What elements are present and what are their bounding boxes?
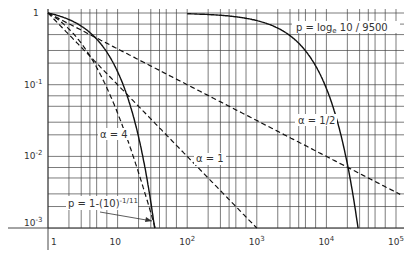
log-log-chart: 110102103104105110-110-210-3 p = loge 10… [0,0,409,257]
grid [48,9,404,228]
series-curve [48,13,257,228]
x-tick-label: 103 [249,235,265,247]
y-tick-label: 1 [33,8,39,18]
y-tick-label: 10-2 [24,149,42,161]
label-alpha-1: α = 1 [196,153,224,164]
pointer-arrow [100,212,152,221]
x-tick-label: 1 [51,237,57,247]
x-tick-label: 105 [388,235,404,247]
y-tick-label: 10-3 [24,216,42,228]
axes [8,9,404,250]
annotations: p = loge 10 / 9500α = 1/2α = 4α = 1p = 1… [66,21,400,222]
x-tick-label: 104 [318,235,334,247]
x-tick-label: 102 [179,235,195,247]
label-alpha-4: α = 4 [100,129,128,140]
y-tick-label: 10-1 [24,78,42,90]
label-p-log: p = loge 10 / 9500 [296,22,388,35]
x-tick-label: 10 [110,237,122,247]
label-alpha-half: α = 1/2 [298,115,335,126]
